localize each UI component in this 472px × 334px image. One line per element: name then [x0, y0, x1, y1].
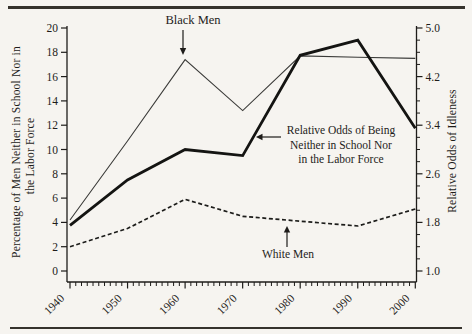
annotation-relative-odds-line1: Relative Odds of Being [287, 123, 395, 138]
white-men-arrow [284, 226, 290, 233]
right-axis-tick-label: 3.4 [426, 119, 441, 131]
black-men-arrow [180, 48, 186, 55]
left-axis-tick-label: 16 [47, 71, 59, 83]
annotation-relative-odds-line2: Neither in School Nor [287, 138, 395, 153]
right-axis-tick-label: 1.0 [426, 265, 441, 277]
right-axis-tick-label: 1.8 [426, 216, 441, 228]
left-axis-tick-label: 12 [47, 119, 59, 131]
left-axis-title-line2: the Labor Force [24, 118, 36, 194]
right-axis-tick-label: 4.2 [426, 71, 441, 83]
left-axis-tick-label: 14 [47, 95, 59, 107]
left-axis-tick-label: 18 [47, 46, 59, 58]
left-axis-tick-label: 20 [47, 22, 59, 34]
chart-canvas: 024681012141618201.01.82.63.44.25.019401… [0, 0, 472, 334]
figure: 024681012141618201.01.82.63.44.25.019401… [0, 0, 472, 334]
relative-odds-arrow [256, 134, 263, 140]
x-axis-tick-label: 1970 [214, 292, 239, 317]
x-axis-tick-label: 1980 [272, 292, 297, 317]
left-axis-tick-label: 0 [52, 265, 58, 277]
annotation-white-men: White Men [262, 248, 314, 260]
x-axis-tick-label: 2000 [387, 292, 412, 317]
left-axis-tick-label: 4 [52, 216, 58, 228]
right-axis-tick-label: 5.0 [426, 22, 441, 34]
left-axis-title-line1: Percentage of Men Neither in School Nor … [10, 46, 22, 258]
right-axis: 1.01.82.63.44.25.0 [417, 22, 441, 277]
left-axis-tick-label: 2 [52, 241, 58, 253]
annotation-black-men: Black Men [165, 13, 220, 28]
bottom-rule [10, 327, 462, 329]
x-axis-tick-label: 1990 [329, 292, 354, 317]
left-axis-tick-label: 8 [52, 168, 58, 180]
x-axis-tick-label: 1940 [42, 292, 67, 317]
x-axis: 1940195019601970198019902000 [42, 282, 416, 317]
annotation-relative-odds-line3: in the Labor Force [287, 152, 395, 167]
annotation-arrows [180, 30, 290, 247]
left-axis: 02468101214161820 [47, 22, 68, 277]
annotation-relative-odds: Relative Odds of Being Neither in School… [287, 123, 395, 167]
left-axis-tick-label: 10 [47, 144, 59, 156]
right-axis-title: Relative Odds of Idleness [446, 89, 458, 213]
white-men-line [70, 199, 415, 246]
left-axis-tick-label: 6 [52, 192, 58, 204]
x-axis-tick-label: 1950 [99, 292, 124, 317]
right-axis-tick-label: 2.6 [426, 168, 441, 180]
x-axis-tick-label: 1960 [157, 292, 182, 317]
